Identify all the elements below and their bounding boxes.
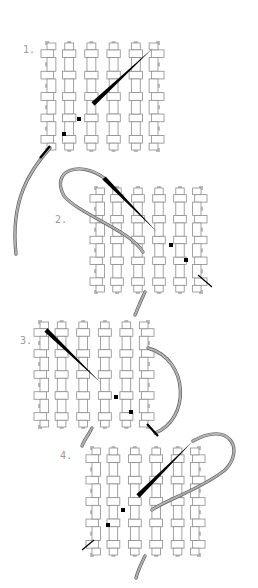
stitch-hole: [169, 243, 173, 247]
canvas-grid: [86, 446, 205, 557]
thread: [15, 148, 50, 254]
step-2-label: 2.: [55, 214, 67, 225]
step-4-group: [86, 434, 234, 557]
stitch-hole: [121, 508, 125, 512]
step-3-group: [34, 320, 180, 433]
needle-icon: [91, 48, 153, 106]
stitch-hole: [106, 523, 110, 527]
needle-icon: [44, 328, 101, 383]
step-4-label: 4.: [60, 450, 72, 461]
step-1-label: 1.: [23, 44, 35, 55]
needle-icon: [102, 176, 157, 232]
stitch-hole: [114, 395, 118, 399]
stitch-illustration: [0, 0, 258, 588]
step-2-group: [60, 169, 207, 294]
stitch-hole: [62, 132, 66, 136]
needle-icon: [136, 441, 193, 498]
canvas-grid: [90, 186, 207, 294]
step-3-label: 3.: [20, 335, 32, 346]
stitch-diagram: 1. 2. 3. 4.: [0, 0, 258, 588]
stitch-hole: [129, 410, 133, 414]
stitch-hole: [77, 117, 81, 121]
stitch-hole: [184, 258, 188, 262]
